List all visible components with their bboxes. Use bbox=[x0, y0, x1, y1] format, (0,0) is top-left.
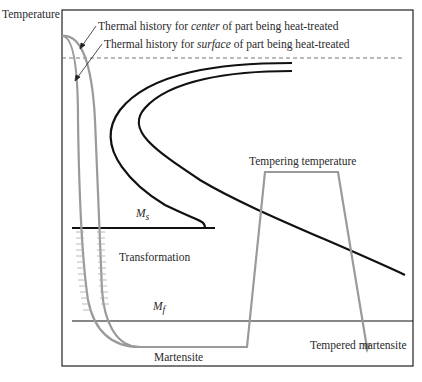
ms-m: M bbox=[136, 207, 146, 219]
ms-label: Ms bbox=[136, 207, 149, 222]
surface-history-label: Thermal history for surface of part bein… bbox=[104, 38, 350, 50]
transformation-label: Transformation bbox=[119, 251, 190, 263]
mf-label: Mf bbox=[153, 300, 165, 315]
tempered-martensite-label: Tempered martensite bbox=[310, 339, 407, 351]
martensite-label: Martensite bbox=[154, 351, 203, 363]
thermal-history-center bbox=[62, 36, 367, 348]
tempering-temperature-label: Tempering temperature bbox=[249, 155, 356, 167]
surface-prefix: Thermal history for bbox=[104, 38, 197, 50]
surface-suffix: of part being heat-treated bbox=[231, 38, 350, 50]
ms-sub: s bbox=[146, 211, 150, 222]
y-axis-label: Temperature bbox=[2, 8, 60, 20]
transformation-start-curve bbox=[111, 63, 292, 228]
surface-emph: surface bbox=[197, 38, 231, 50]
center-suffix: of part being heat-treated bbox=[220, 20, 339, 32]
thermal-history-surface bbox=[62, 36, 140, 347]
ttt-diagram bbox=[0, 0, 422, 382]
mf-m: M bbox=[153, 300, 163, 312]
center-prefix: Thermal history for bbox=[98, 20, 191, 32]
center-emph: center bbox=[191, 20, 220, 32]
transformation-hatching bbox=[76, 232, 109, 310]
mf-sub: f bbox=[163, 304, 166, 315]
center-history-label: Thermal history for center of part being… bbox=[98, 20, 338, 32]
